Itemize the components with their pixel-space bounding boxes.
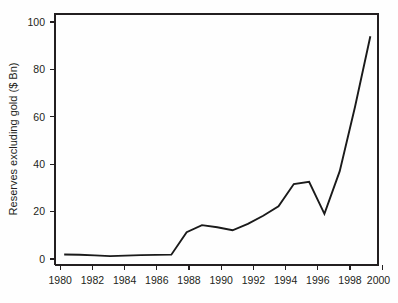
x-tick-label: 1986: [145, 274, 169, 286]
x-tick-label: 1992: [242, 274, 266, 286]
chart-figure: 0 20 40 60 80 100 1980 1982 1984 1986: [0, 0, 398, 303]
x-tick-label: 1996: [306, 274, 330, 286]
y-tick-label: 80: [33, 63, 45, 75]
y-tick-label: 100: [27, 16, 45, 28]
y-tick-label: 0: [39, 253, 45, 265]
y-axis-title: Reserves excluding gold ($ Bn): [7, 63, 19, 216]
x-axis-tick-labels: 1980 1982 1984 1986 1988 1990 1992 1994 …: [49, 274, 391, 286]
x-tick-label: 1998: [338, 274, 362, 286]
line-chart-svg: 0 20 40 60 80 100 1980 1982 1984 1986: [0, 0, 398, 303]
figure-background: [0, 0, 398, 303]
x-tick-label: 1988: [177, 274, 201, 286]
y-tick-label: 60: [33, 111, 45, 123]
x-tick-label: 1982: [81, 274, 105, 286]
x-tick-label: 2000: [367, 274, 391, 286]
x-tick-label: 1980: [49, 274, 73, 286]
x-tick-label: 1990: [210, 274, 234, 286]
y-tick-label: 40: [33, 158, 45, 170]
y-tick-label: 20: [33, 205, 45, 217]
x-tick-label: 1984: [113, 274, 137, 286]
x-tick-label: 1994: [274, 274, 298, 286]
